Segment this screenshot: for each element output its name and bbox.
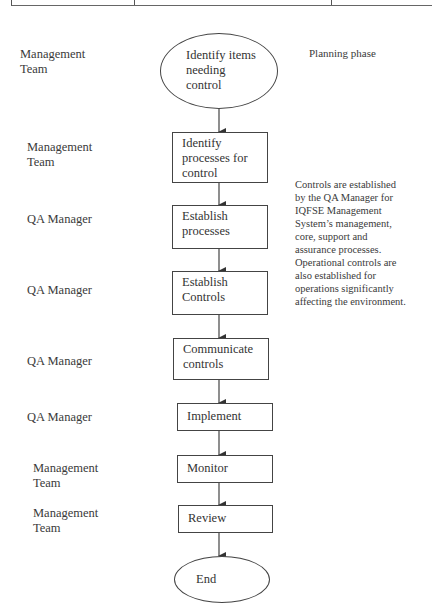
role-line: Management [33,506,98,521]
role-line: QA Manager [27,212,92,227]
role-label: QA Manager [27,410,92,425]
note-line: System’s management, [295,217,406,230]
note-line: also established for [295,269,406,282]
role-label: Management Team [33,461,98,491]
node-label-line: Implement [187,409,272,424]
node-label-line: End [196,572,216,587]
node-label-line: Establish [182,209,267,224]
flow-start-ellipse: Identify items needing control [160,33,278,109]
planning-phase-note: Planning phase [309,47,376,60]
flow-step-communicate-controls: Communicate controls [173,338,269,380]
node-label-line: Establish [182,275,267,290]
node-label-line: needing [186,63,256,78]
flow-step-review: Review [178,505,273,533]
flow-step-establish-processes: Establish processes [172,205,268,249]
flow-step-implement: Implement [177,403,273,431]
node-label-line: Controls [182,290,267,305]
role-label: QA Manager [27,212,92,227]
role-label: QA Manager [27,354,92,369]
role-label: Management Team [20,47,85,77]
node-label-line: Monitor [187,461,272,476]
note-line: by the QA Manager for [295,191,406,204]
node-label-line: Identify items [186,48,256,63]
flow-step-identify-processes: Identify processes for control [172,132,268,183]
role-line: Management [27,140,92,155]
note-line: assurance processes. [295,243,406,256]
flow-step-establish-controls: Establish Controls [172,271,268,315]
role-line: Management [20,47,85,62]
note-line: affecting the environment. [295,295,406,308]
note-line: operations significantly [295,282,406,295]
flow-step-monitor: Monitor [177,455,273,483]
role-line: Team [33,476,98,491]
node-label-line: Communicate [183,342,268,357]
note-line: Operational controls are [295,256,406,269]
role-line: QA Manager [27,410,92,425]
node-label-line: Identify [182,136,267,151]
node-label-line: Review [188,511,272,526]
role-line: Team [20,62,85,77]
role-label: Management Team [33,506,98,536]
flow-end-ellipse: End [174,556,270,603]
node-label-line: control [182,166,267,181]
role-line: QA Manager [27,354,92,369]
controls-side-note: Controls are established by the QA Manag… [295,178,406,308]
note-line: Controls are established [295,178,406,191]
role-line: QA Manager [27,283,92,298]
role-line: Team [27,155,92,170]
node-label-line: processes for [182,151,267,166]
node-label-line: control [186,78,256,93]
node-label-line: controls [183,357,268,372]
role-label: Management Team [27,140,92,170]
role-line: Team [33,521,98,536]
node-label-line: processes [182,224,267,239]
note-line: core, support and [295,230,406,243]
note-line: IQFSE Management [295,204,406,217]
role-line: Management [33,461,98,476]
role-label: QA Manager [27,283,92,298]
